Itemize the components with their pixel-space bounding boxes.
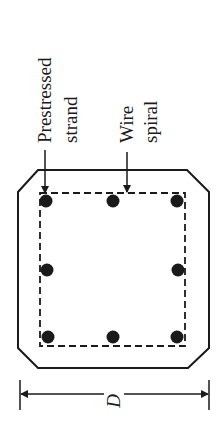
strand-dot xyxy=(107,331,120,344)
pile-section-diagram: Prestressed strand Wire spiral D xyxy=(0,0,224,442)
strand-dot xyxy=(40,195,53,208)
strand-dot xyxy=(41,264,54,277)
strand-dot xyxy=(171,195,184,208)
spiral-label-line1: Wire xyxy=(116,106,137,143)
strand-dot xyxy=(172,264,185,277)
prestressed-strands xyxy=(40,195,185,344)
diagram-canvas: Prestressed strand Wire spiral D xyxy=(0,0,224,442)
dimension-label: D xyxy=(103,394,124,409)
strand-label-line2: strand xyxy=(60,96,81,143)
strand-label-line1: Prestressed xyxy=(34,57,55,143)
strand-dot xyxy=(107,195,120,208)
wire-spiral-outline xyxy=(40,193,185,346)
strand-dot xyxy=(42,331,55,344)
strand-dot xyxy=(171,331,184,344)
spiral-label-line2: spiral xyxy=(140,101,161,143)
